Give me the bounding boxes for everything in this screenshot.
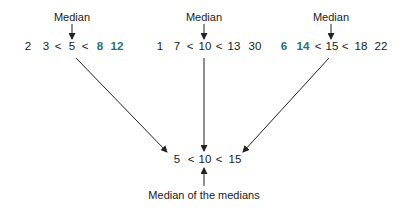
less-than: < xyxy=(55,41,62,53)
median-value: 15 xyxy=(229,154,242,166)
highlighted-value: 14 xyxy=(297,41,310,53)
less-than: < xyxy=(187,41,194,53)
value: 7 xyxy=(174,41,180,53)
value: 30 xyxy=(249,41,262,53)
group-median: 5 xyxy=(69,41,75,53)
median-value: 5 xyxy=(174,154,180,166)
highlighted-value: 6 xyxy=(281,41,287,53)
median-label-1: Median xyxy=(54,12,90,23)
arrows-layer xyxy=(0,0,405,212)
highlighted-value: 12 xyxy=(111,41,124,53)
value: 22 xyxy=(375,41,388,53)
less-than: < xyxy=(342,41,349,53)
less-than: < xyxy=(216,154,223,166)
result-label: Median of the medians xyxy=(148,190,259,201)
less-than: < xyxy=(82,41,89,53)
group-median: 10 xyxy=(199,41,212,53)
value: 18 xyxy=(355,41,368,53)
less-than: < xyxy=(216,41,223,53)
less-than: < xyxy=(188,154,195,166)
median-label-3: Median xyxy=(313,12,349,23)
converge-arrow-3 xyxy=(243,58,329,152)
value: 1 xyxy=(157,41,163,53)
value: 13 xyxy=(228,41,241,53)
highlighted-value: 8 xyxy=(97,41,103,53)
median-of-medians-value: 10 xyxy=(199,154,212,166)
converge-arrow-1 xyxy=(76,58,167,152)
group-median: 15 xyxy=(326,41,339,53)
value: 2 xyxy=(25,41,31,53)
less-than: < xyxy=(315,41,322,53)
value: 3 xyxy=(43,41,49,53)
median-label-2: Median xyxy=(186,12,222,23)
